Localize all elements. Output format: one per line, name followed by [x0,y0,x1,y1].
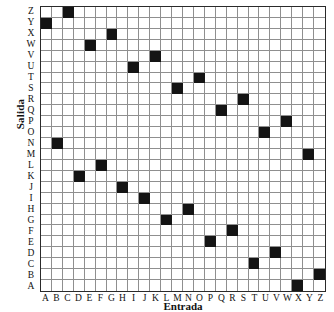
matrix-cell [205,193,216,204]
matrix-cell [292,182,303,193]
matrix-cell [128,247,139,258]
matrix-cell [128,40,139,51]
matrix-cell [161,160,172,171]
matrix-cell [96,138,107,149]
matrix-cell [270,204,281,215]
matrix-cell [216,73,227,84]
matrix-cell [238,193,249,204]
matrix-cell [52,73,63,84]
matrix-cell [314,105,325,116]
matrix-cell [63,160,74,171]
matrix-cell [85,280,96,291]
matrix-cell [183,94,194,105]
matrix-cell [85,105,96,116]
matrix-cell [96,204,107,215]
matrix-cell [74,149,85,160]
matrix-cell [117,193,128,204]
matrix-cell [128,236,139,247]
matrix-cell [183,51,194,62]
matrix-cell [85,193,96,204]
matrix-cell [172,149,183,160]
matrix-cell [63,29,74,40]
matrix-cell [238,149,249,160]
matrix-cell [107,105,118,116]
matrix-cell [128,182,139,193]
matrix-cell [85,29,96,40]
matrix-cell [161,73,172,84]
matrix-cell [238,215,249,226]
matrix-cell [281,40,292,51]
y-tick-T: T [24,72,38,83]
matrix-cell [41,280,52,291]
matrix-cell [96,94,107,105]
matrix-cell [139,258,150,269]
matrix-cell [227,83,238,94]
matrix-cell [216,258,227,269]
matrix-cell [281,182,292,193]
matrix-cell [85,247,96,258]
matrix-cell [107,160,118,171]
matrix-cell [259,18,270,29]
y-tick-K: K [24,171,38,182]
matrix-cell [238,105,249,116]
matrix-cell [216,138,227,149]
matrix-cell [172,62,183,73]
matrix-cell [161,149,172,160]
matrix-cell [85,160,96,171]
matrix-cell [314,73,325,84]
matrix-cell [270,182,281,193]
matrix-cell [205,247,216,258]
matrix-cell [41,127,52,138]
matrix-cell [96,225,107,236]
matrix-cell [227,138,238,149]
matrix-cell [270,236,281,247]
matrix-cell [74,258,85,269]
matrix-cell [205,116,216,127]
matrix-cell [216,171,227,182]
y-tick-A: A [24,281,38,292]
matrix-cell [270,51,281,62]
matrix-cell [161,94,172,105]
matrix-cell [85,149,96,160]
matrix-cell [259,269,270,280]
matrix-cell [194,204,205,215]
matrix-cell [161,225,172,236]
matrix-cell [249,225,260,236]
matrix-cell [74,29,85,40]
matrix-cell [194,18,205,29]
matrix-cell [150,182,161,193]
matrix-cell [281,73,292,84]
matrix-cell [63,171,74,182]
matrix-cell [227,62,238,73]
matrix-cell [139,236,150,247]
matrix-cell [117,138,128,149]
matrix-cell [128,116,139,127]
matrix-cell [117,160,128,171]
matrix-cell [292,247,303,258]
matrix-cell [314,225,325,236]
matrix-cell [314,236,325,247]
matrix-cell [96,182,107,193]
matrix-cell [303,171,314,182]
matrix-cell [249,40,260,51]
matrix-cell [74,51,85,62]
matrix-cell [139,149,150,160]
matrix-cell [139,171,150,182]
matrix-cell [172,171,183,182]
matrix-cell [128,204,139,215]
y-tick-Y: Y [24,17,38,28]
matrix-cell [107,116,118,127]
matrix-cell-filled [52,138,63,149]
matrix-cell [96,18,107,29]
matrix-cell [74,182,85,193]
matrix-cell [292,215,303,226]
matrix-cell [139,127,150,138]
matrix-cell [227,182,238,193]
matrix-cell [52,51,63,62]
matrix-cell [117,269,128,280]
matrix-cell [281,7,292,18]
matrix-cell [314,51,325,62]
matrix-cell [292,204,303,215]
matrix-cell [216,215,227,226]
matrix-cell [292,7,303,18]
